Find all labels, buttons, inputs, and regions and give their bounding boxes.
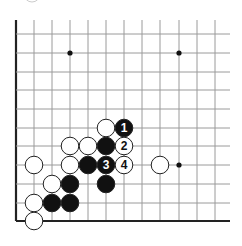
black-stone <box>43 194 61 212</box>
star-point-icon <box>176 162 181 167</box>
move-number-label: 4 <box>121 158 128 172</box>
white-stone <box>43 175 61 193</box>
white-stone <box>79 137 97 155</box>
white-stone <box>151 156 169 174</box>
move-number-label: 2 <box>121 139 128 153</box>
star-point-icon <box>176 50 181 55</box>
cropped-circle-icon <box>24 0 40 2</box>
white-stone: 2 <box>115 137 133 155</box>
black-stone <box>97 137 115 155</box>
stones-layer: 1234 <box>25 119 169 230</box>
white-stone <box>25 194 43 212</box>
white-stone <box>97 119 115 137</box>
black-stone <box>97 175 115 193</box>
black-stone: 3 <box>97 156 115 174</box>
move-number-label: 1 <box>121 121 128 135</box>
white-stone <box>61 137 79 155</box>
white-stone <box>25 156 43 174</box>
black-stone: 1 <box>115 119 133 137</box>
white-stone <box>25 212 43 230</box>
black-stone <box>61 175 79 193</box>
move-number-label: 3 <box>103 158 110 172</box>
white-stone: 4 <box>115 156 133 174</box>
black-stone <box>61 194 79 212</box>
star-point-icon <box>67 50 72 55</box>
go-board: 1234 <box>0 0 242 246</box>
white-stone <box>61 156 79 174</box>
black-stone <box>79 156 97 174</box>
